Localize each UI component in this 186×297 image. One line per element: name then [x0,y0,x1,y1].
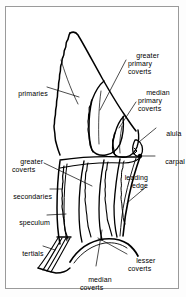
label-line: median primary coverts [138,89,170,112]
tertial-3 [47,238,66,271]
greater-coverts-band-edge [79,161,84,242]
primary-trailing-vane [54,33,70,155]
label-line: secondaries [13,193,52,200]
label-line: median coverts [80,276,112,291]
label-line: greater primary coverts [128,52,159,75]
label-line: carpal [165,158,185,165]
label-median-primary-coverts: median primary coverts [138,81,170,121]
greater-primary-coverts-inner-line [99,91,101,144]
label-alula: alula [158,122,181,146]
median-coverts-band-edge [99,160,104,240]
label-greater-coverts: greater coverts [12,150,43,182]
tertial-2 [43,238,62,270]
label-line: greater coverts [12,158,43,173]
leader-primaries [47,87,79,97]
label-speculum: speculum [11,211,50,235]
label-lesser-coverts: lesser coverts [128,249,155,281]
wing-base-inner-arc [74,243,127,263]
greater-coverts-top-edge [60,157,140,160]
wing-anatomy-figure: greater primary coverts median primary c… [0,0,186,297]
label-line: speculum [19,219,50,226]
label-secondaries: secondaries [5,185,52,209]
leader-greater-primary-coverts [100,60,126,110]
label-line: leading edge [125,174,148,189]
secondaries-outer-edge [57,161,60,244]
primary-inner-fold [61,60,78,104]
label-median-coverts: median coverts [80,268,112,297]
leader-alula [139,128,156,142]
label-leading-edge: leading edge [112,166,148,198]
leader-median-primary-coverts [119,102,136,128]
label-tertials: tertials [14,242,44,266]
greater-primary-coverts-shape [89,81,123,155]
label-line: alula [166,130,181,137]
label-line: primaries [18,90,48,97]
greater-coverts-band-vane [85,163,91,237]
label-primaries: primaries [10,82,48,106]
label-carpal: carpal [157,150,185,174]
label-line: tertials [22,250,43,257]
leader-median-coverts [96,230,102,266]
median-primary-coverts-shape [113,116,139,157]
median-coverts-band-vane [105,162,112,236]
label-line: lesser coverts [128,257,155,272]
label-greater-primary-coverts: greater primary coverts [128,44,159,84]
